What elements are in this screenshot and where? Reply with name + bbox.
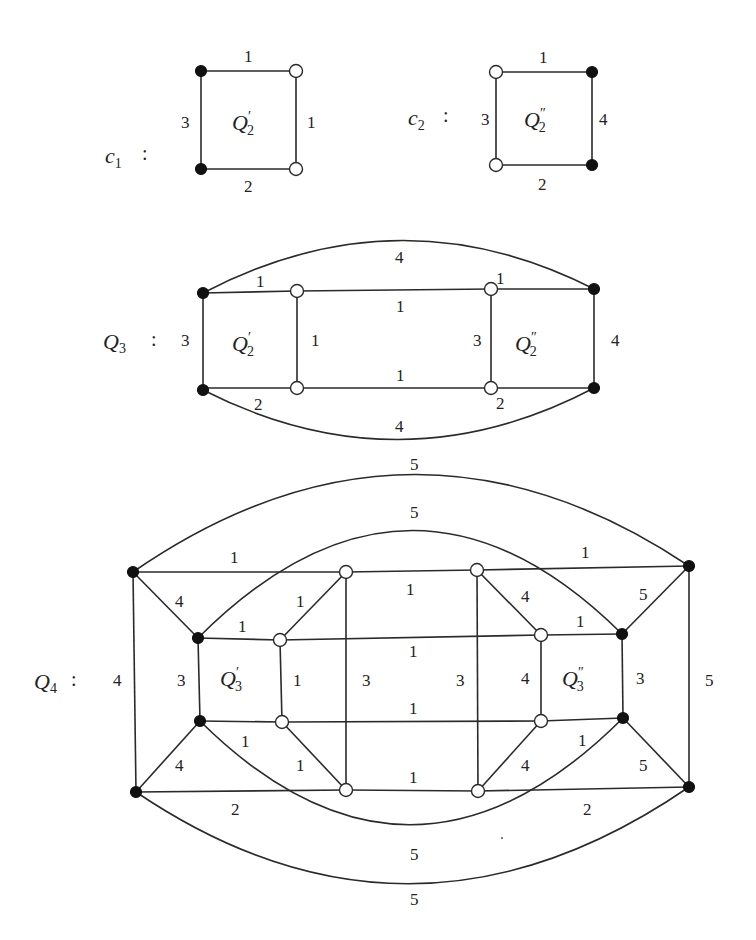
q4-label-mid-row-top: 1: [409, 642, 418, 661]
q4-node-open-outer-br: [472, 785, 485, 798]
q4-label-outer-arc-bottom: 5: [410, 890, 419, 909]
q4-label-diag-tl: 4: [175, 592, 184, 611]
c2-title: c2: [408, 105, 425, 133]
q4-node-outer-bl: [131, 787, 142, 798]
q4-arc-outer-top: [133, 474, 689, 572]
c1-label-right: 1: [307, 113, 316, 132]
q4-edge-top-mid: [346, 570, 477, 572]
q3-node-2: [198, 385, 209, 396]
q4-edge-diag-bl: [136, 721, 200, 792]
q4-label-mid-right-vertical: 3: [456, 671, 465, 690]
c1-colon: :: [142, 142, 148, 164]
q4-label-bottom-right: 2: [583, 800, 592, 819]
c2-label-right: 4: [599, 110, 608, 129]
q3-label-right-inner-side: 3: [473, 331, 482, 350]
q4-node-outer-br: [684, 782, 695, 793]
q3-label-arc-bottom: 4: [395, 417, 404, 436]
q3-inner-left-label: Q′2: [232, 330, 254, 359]
q4-edge-mid-row-bottom: [282, 721, 541, 722]
q4-label-outer-arc-top: 5: [410, 455, 419, 474]
c2-label-top: 1: [539, 48, 548, 67]
q3-node-8: [589, 383, 600, 394]
q4-label-top-mid: 1: [406, 580, 415, 599]
q4-label-diag-open-tr: 4: [521, 587, 530, 606]
q4-label-diag-tr: 5: [639, 585, 648, 604]
q4-label-inner-right-top: 1: [576, 612, 585, 631]
q4-label-bottom-mid: 1: [409, 768, 418, 787]
c1-node-tl: [196, 66, 207, 77]
q4-node-open-outer-tl: [340, 566, 353, 579]
q4-edge-inner-right-bottom: [541, 718, 623, 721]
q4-label-bottom-left: 2: [231, 800, 240, 819]
q4-graph: Q4 :: [34, 455, 714, 909]
q4-label-inner-right-bottom: 1: [578, 731, 587, 750]
q4-label-inner-right-side: 3: [636, 669, 645, 688]
q4-label-inner-right-open-side: 4: [521, 669, 530, 688]
c1-label-top: 1: [244, 47, 253, 66]
q3-node-3: [291, 285, 304, 298]
c2-graph: c2 : 1 4 2 3 Q″2: [408, 48, 608, 194]
q3-label-right-side: 4: [611, 331, 620, 350]
q4-node-open-inner-tl: [274, 634, 287, 647]
c1-node-bl: [196, 164, 207, 175]
c2-colon: :: [443, 104, 449, 126]
scan-speck: [501, 837, 503, 839]
q3-label-left-side: 3: [181, 331, 190, 350]
q4-node-open-inner-tr: [535, 629, 548, 642]
q4-node-open-outer-tr: [471, 564, 484, 577]
q4-edge-inner-left-open-side: [280, 640, 282, 722]
q4-edge-diag-open-bl: [282, 722, 346, 790]
q4-node-outer-tr: [684, 561, 695, 572]
q3-label-left-inner-side: 1: [311, 331, 320, 350]
q3-label-left-bottom: 2: [254, 395, 263, 414]
q3-label-left-top: 1: [256, 272, 265, 291]
q4-edge-diag-br: [623, 718, 689, 787]
q4-label-diag-br: 5: [639, 756, 648, 775]
q4-label-inner-left-side: 3: [177, 671, 186, 690]
c1-node-tr: [290, 65, 303, 78]
q4-label-inner-arc-top: 5: [410, 503, 419, 522]
q3-node-7: [589, 284, 600, 295]
q4-edge-bottom-right: [478, 787, 689, 791]
q4-edge-diag-open-br: [478, 721, 541, 791]
q4-label-diag-open-br: 4: [521, 756, 530, 775]
q4-node-inner-bl: [195, 716, 206, 727]
q3-edge-mid-top: [297, 289, 491, 291]
q4-colon: :: [71, 668, 77, 690]
q4-edge-inner-right-top: [541, 634, 622, 635]
c1-label-left: 3: [181, 113, 190, 132]
q4-label-top-right: 1: [581, 543, 590, 562]
q4-label-diag-open-bl: 1: [296, 756, 305, 775]
c2-label-bottom: 2: [538, 175, 547, 194]
q3-inner-right-label: Q″2: [515, 330, 537, 359]
q4-inner-left-label: Q′3: [220, 665, 242, 694]
q4-edge-inner-right-side: [622, 634, 623, 718]
q4-edge-top-right: [477, 566, 689, 570]
c1-graph: c1 : 1 1 2 3 Q′2: [105, 47, 316, 196]
q4-edge-inner-left-top: [198, 638, 280, 640]
c1-title: c1: [105, 143, 122, 171]
q4-edge-bottom-mid: [346, 790, 478, 791]
q4-edge-inner-left-side: [198, 638, 200, 721]
q4-node-open-outer-bl: [340, 784, 353, 797]
q4-title: Q4: [34, 669, 57, 696]
q4-edge-diag-tr: [622, 566, 689, 634]
q3-graph: Q3 : 4 4 1 2 3 1 1 1 3 1 2: [103, 240, 620, 439]
q4-label-inner-arc-bottom: 5: [410, 845, 419, 864]
q3-title: Q3: [103, 329, 126, 356]
q4-label-outer-right-side: 5: [705, 671, 714, 690]
q4-label-diag-open-tl: 1: [296, 592, 305, 611]
q4-node-inner-br: [618, 713, 629, 724]
c2-node-tl: [490, 66, 503, 79]
c2-node-tr: [587, 67, 598, 78]
graph-figure: c1 : 1 1 2 3 Q′2 c2 : 1 4 2 3 Q″2 Q3: [0, 0, 756, 940]
q4-node-open-inner-br: [535, 715, 548, 728]
q4-edge-mid-row-top: [280, 635, 541, 640]
q4-inner-right-label: Q″3: [562, 665, 584, 694]
c2-node-br: [587, 160, 598, 171]
q4-label-inner-left-bottom: 1: [241, 732, 250, 751]
q4-node-open-inner-bl: [276, 716, 289, 729]
q4-label-outer-left-side: 4: [113, 671, 122, 690]
q4-arc-outer-bottom: [136, 787, 689, 884]
c1-label-bottom: 2: [244, 177, 253, 196]
